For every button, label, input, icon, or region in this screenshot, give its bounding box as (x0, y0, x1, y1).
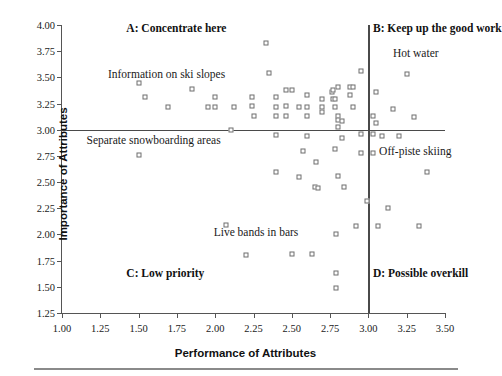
data-point (374, 90, 379, 95)
data-point (165, 104, 170, 109)
data-point (335, 84, 340, 89)
data-point (274, 169, 279, 174)
y-axis-tick-label: 2.50 (37, 177, 55, 188)
data-point (351, 84, 356, 89)
y-axis-tick (57, 104, 62, 105)
data-point (249, 95, 254, 100)
footer-divider (34, 368, 458, 370)
y-axis-tick (57, 287, 62, 288)
x-axis-tick-label: 3.25 (398, 323, 416, 334)
data-point (297, 104, 302, 109)
x-axis-tick (407, 313, 408, 318)
data-point (416, 224, 421, 229)
data-point (243, 253, 248, 258)
data-point (320, 97, 325, 102)
x-axis-title: Performance of Attributes (0, 347, 491, 359)
data-point (314, 160, 319, 165)
data-point (315, 186, 320, 191)
y-axis-tick-label: 1.75 (37, 255, 55, 266)
data-point (213, 104, 218, 109)
data-point (370, 114, 375, 119)
x-axis-tick-label: 2.00 (206, 323, 224, 334)
data-point (334, 232, 339, 237)
data-point (332, 104, 337, 109)
data-point (274, 114, 279, 119)
y-axis-tick-label: 3.50 (37, 72, 55, 83)
x-axis-tick-label: 3.00 (359, 323, 377, 334)
y-axis-tick-label: 1.50 (37, 281, 55, 292)
y-axis-title: Importance of Attributes (57, 107, 69, 240)
y-axis-tick-label: 2.25 (37, 203, 55, 214)
y-axis-tick-label: 2.00 (37, 229, 55, 240)
data-point (358, 131, 363, 136)
x-axis-tick-label: 3.50 (436, 323, 454, 334)
x-axis-tick (368, 313, 369, 318)
annotation-label: Hot water (393, 47, 439, 59)
annotation-label: Live bands in bars (214, 226, 299, 238)
data-point (251, 114, 256, 119)
data-point (305, 93, 310, 98)
data-point (309, 252, 314, 257)
data-point (305, 104, 310, 109)
data-point (274, 95, 279, 100)
y-axis-tick (57, 51, 62, 52)
data-point (136, 152, 141, 157)
annotation-label: Separate snowboarding areas (87, 134, 221, 146)
data-point (283, 114, 288, 119)
x-axis-tick (215, 313, 216, 318)
data-point (370, 131, 375, 136)
y-axis-tick (57, 261, 62, 262)
data-point (412, 115, 417, 120)
data-point (358, 150, 363, 155)
x-axis-tick (292, 313, 293, 318)
y-axis-tick-label: 1.25 (37, 308, 55, 319)
x-axis-tick (445, 313, 446, 318)
data-point (332, 97, 337, 102)
data-point (341, 185, 346, 190)
data-point (397, 134, 402, 139)
performance-mean-line (368, 25, 370, 313)
y-axis-tick-label: 4.00 (37, 20, 55, 31)
data-point (300, 148, 305, 153)
x-axis-tick (254, 313, 255, 318)
y-axis-tick (57, 25, 62, 26)
x-axis-tick-label: 1.00 (53, 323, 71, 334)
data-point (142, 95, 147, 100)
data-point (404, 72, 409, 77)
data-point (390, 106, 395, 111)
data-point (351, 104, 356, 109)
x-axis-tick-label: 2.75 (321, 323, 339, 334)
x-axis-tick (330, 313, 331, 318)
data-point (332, 146, 337, 151)
data-point (231, 104, 236, 109)
quadrant-label-d: D: Possible overkill (373, 267, 468, 279)
data-point (274, 104, 279, 109)
data-point (274, 132, 279, 137)
x-axis-tick (177, 313, 178, 318)
data-point (305, 114, 310, 119)
x-axis-tick-label: 1.75 (168, 323, 186, 334)
data-point (386, 206, 391, 211)
x-axis-tick-label: 2.25 (244, 323, 262, 334)
quadrant-label-b: B: Keep up the good work (373, 22, 502, 34)
data-point (348, 93, 353, 98)
y-axis-tick (57, 77, 62, 78)
data-point (136, 80, 141, 85)
data-point (213, 95, 218, 100)
data-point (228, 127, 233, 132)
data-point (289, 252, 294, 257)
y-axis-tick-label: 3.75 (37, 46, 55, 57)
importance-mean-line (62, 130, 445, 132)
y-axis-tick-label: 2.75 (37, 150, 55, 161)
x-axis-tick-label: 1.25 (91, 323, 109, 334)
data-point (283, 87, 288, 92)
data-point (375, 224, 380, 229)
data-point (190, 86, 195, 91)
data-point (334, 271, 339, 276)
data-point (205, 104, 210, 109)
data-point (380, 134, 385, 139)
x-axis-tick (139, 313, 140, 318)
x-axis-tick-label: 2.50 (283, 323, 301, 334)
x-axis-tick (62, 313, 63, 318)
